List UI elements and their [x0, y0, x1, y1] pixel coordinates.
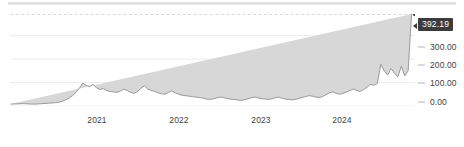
toolbar-divider-band: [8, 2, 456, 5]
y-tick-mark-100: [418, 83, 425, 84]
x-axis-labels: 2021 2022 2023 2024: [0, 115, 464, 129]
value-badge-pointer: [413, 23, 417, 29]
current-value-badge[interactable]: 392.19: [418, 18, 453, 31]
chart-svg: [10, 14, 415, 106]
y-axis-label-100: 100.00: [430, 78, 457, 88]
y-axis-label-0: 0.00: [430, 97, 447, 107]
x-axis-label-2024: 2024: [332, 115, 351, 125]
y-tick-mark-300: [418, 47, 425, 48]
x-axis-label-2022: 2022: [169, 115, 188, 125]
y-tick-mark-0: [418, 102, 425, 103]
price-history-chart-widget[interactable]: 300.00 200.00 100.00 0.00 392.19 2021 20…: [0, 0, 464, 147]
y-axis-label-200: 200.00: [430, 60, 457, 70]
x-axis-label-2023: 2023: [251, 115, 270, 125]
chart-plot-area[interactable]: [10, 14, 415, 106]
last-value-marker: [413, 14, 415, 16]
x-axis-label-2021: 2021: [87, 115, 106, 125]
y-tick-mark-200: [418, 65, 425, 66]
y-axis-label-300: 300.00: [430, 42, 457, 52]
